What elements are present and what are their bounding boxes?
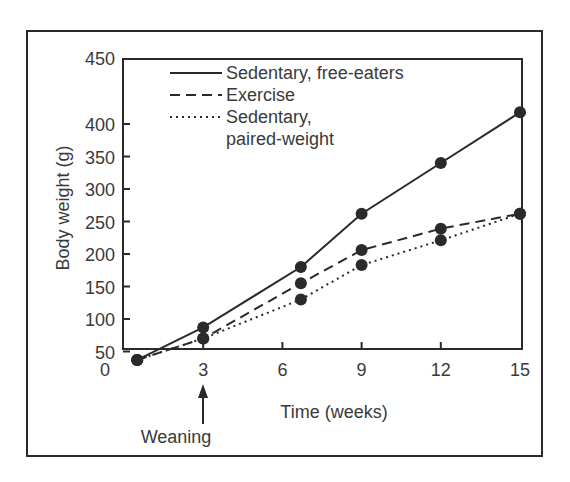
x-tick-label: 0 bbox=[100, 360, 110, 380]
data-point bbox=[295, 261, 307, 273]
data-point bbox=[356, 244, 368, 256]
data-point bbox=[197, 321, 209, 333]
y-tick-label: 150 bbox=[85, 278, 115, 298]
series-line bbox=[137, 214, 520, 360]
y-tick-label: 450 bbox=[85, 49, 115, 69]
data-point bbox=[435, 157, 447, 169]
data-point bbox=[295, 277, 307, 289]
y-tick-label: 250 bbox=[85, 213, 115, 233]
data-point bbox=[131, 354, 143, 366]
ticks: 5010015020025030035040045003691215 bbox=[85, 49, 530, 380]
data-point bbox=[356, 259, 368, 271]
x-tick-label: 6 bbox=[277, 360, 287, 380]
y-axis-label: Body weight (g) bbox=[53, 145, 73, 270]
data-point bbox=[197, 333, 209, 345]
y-tick-label: 200 bbox=[85, 245, 115, 265]
data-point bbox=[356, 208, 368, 220]
y-tick-label: 350 bbox=[85, 148, 115, 168]
data-point bbox=[295, 294, 307, 306]
x-tick-label: 15 bbox=[510, 360, 530, 380]
legend: Sedentary, free-eatersExerciseSedentary,… bbox=[170, 63, 404, 149]
body-weight-chart: 5010015020025030035040045003691215 Seden… bbox=[0, 0, 570, 482]
legend-label: Sedentary, bbox=[226, 107, 312, 127]
data-point bbox=[435, 234, 447, 246]
weaning-arrow-head bbox=[198, 384, 208, 398]
x-tick-label: 9 bbox=[357, 360, 367, 380]
data-point bbox=[435, 223, 447, 235]
y-tick-label: 100 bbox=[85, 310, 115, 330]
legend-label: Exercise bbox=[226, 85, 295, 105]
weaning-label: Weaning bbox=[141, 427, 212, 447]
data-point bbox=[514, 208, 526, 220]
x-axis-label: Time (weeks) bbox=[280, 402, 387, 422]
axes bbox=[123, 59, 522, 349]
y-tick-label: 400 bbox=[85, 115, 115, 135]
legend-label: Sedentary, free-eaters bbox=[226, 63, 404, 83]
x-tick-label: 3 bbox=[198, 360, 208, 380]
x-tick-label: 12 bbox=[431, 360, 451, 380]
weaning-annotation: Weaning bbox=[141, 384, 212, 447]
y-tick-label: 300 bbox=[85, 180, 115, 200]
series-line bbox=[137, 112, 520, 360]
plot-area-border bbox=[123, 59, 522, 349]
series-line bbox=[137, 214, 520, 360]
data-point bbox=[514, 106, 526, 118]
legend-label: paired-weight bbox=[226, 129, 334, 149]
